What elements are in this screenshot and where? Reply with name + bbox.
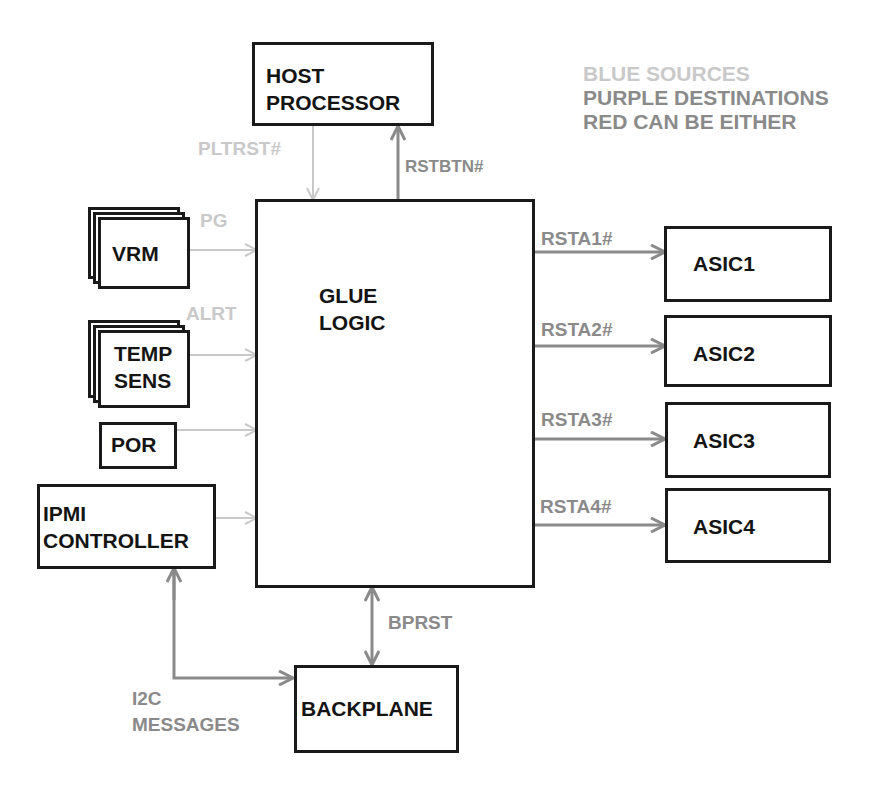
vrm-label: VRM [112,240,159,267]
por-label: POR [111,431,157,458]
signal-i2c-messages: I2C MESSAGES [132,686,240,738]
signal-rstbtn: RSTBTN# [405,157,483,177]
asic2-label: ASIC2 [693,340,755,367]
legend: BLUE SOURCES PURPLE DESTINATIONS RED CAN… [583,62,829,134]
ipmi-controller-label: IPMI CONTROLLER [43,500,189,554]
legend-either: RED CAN BE EITHER [583,110,829,134]
signal-rsta4: RSTA4# [540,496,611,518]
signal-rsta3: RSTA3# [541,409,612,431]
signal-alrt: ALRT [186,303,237,325]
asic3-label: ASIC3 [693,427,755,454]
glue-logic-label: GLUE LOGIC [319,282,386,336]
asic4-label: ASIC4 [693,513,755,540]
signal-bprst: BPRST [388,612,452,634]
legend-sources: BLUE SOURCES [583,62,829,86]
signal-rsta2: RSTA2# [541,319,612,341]
signal-pg: PG [200,210,227,232]
temp-sens-label: TEMP SENS [114,340,172,394]
host-processor-label: HOST PROCESSOR [266,62,400,116]
legend-destinations: PURPLE DESTINATIONS [583,86,829,110]
backplane-label: BACKPLANE [301,695,433,722]
glue-logic-block [255,199,535,588]
asic1-label: ASIC1 [693,250,755,277]
signal-rsta1: RSTA1# [541,228,612,250]
signal-pltrst: PLTRST# [198,138,281,160]
